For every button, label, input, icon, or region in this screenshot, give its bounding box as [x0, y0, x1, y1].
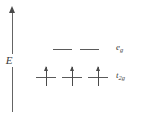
level-label-eg-subscript: g	[120, 46, 123, 53]
level-label-eg: eg	[116, 42, 123, 53]
electron-spin-up-arrow-icon	[46, 67, 47, 86]
orbital-t2g-2	[62, 66, 82, 90]
orbital-t2g-3	[88, 66, 108, 90]
level-label-t2g-subscript: 2g	[119, 74, 126, 81]
crystal-field-splitting-diagram: E eg t2g	[0, 0, 142, 121]
electron-spin-up-arrow-icon	[98, 67, 99, 86]
orbital-line	[80, 49, 99, 50]
energy-axis-arrowhead-icon	[9, 6, 15, 13]
level-label-t2g: t2g	[116, 70, 125, 81]
orbital-eg-1	[53, 38, 72, 62]
orbital-eg-2	[80, 38, 99, 62]
electron-spin-up-arrow-icon	[72, 67, 73, 86]
orbital-t2g-1	[36, 66, 56, 90]
orbital-line	[53, 49, 72, 50]
